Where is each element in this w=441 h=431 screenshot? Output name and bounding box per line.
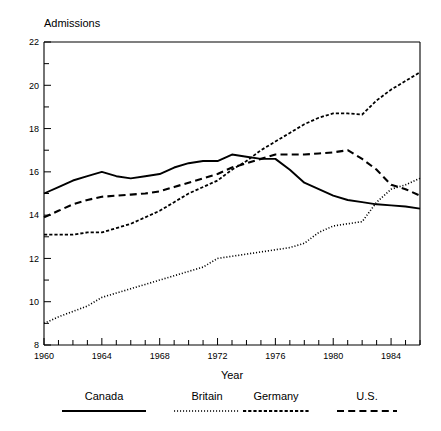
x-axis-tick-label: 1980 [323,351,343,361]
y-axis-tick-label: 16 [29,167,39,177]
legend-label-britain: Britain [191,390,222,402]
x-axis-tick-label: 1976 [265,351,285,361]
x-axis-tick-label: 1972 [208,351,228,361]
x-axis-tick-label: 1960 [34,351,54,361]
legend-label-us: U.S. [356,390,377,402]
x-axis-title: Year [221,369,244,381]
x-axis-tick-label: 1964 [92,351,112,361]
chart-title: Admissions [44,17,101,29]
y-axis-tick-label: 8 [34,340,39,350]
y-axis-tick-label: 10 [29,297,39,307]
legend-label-germany: Germany [253,390,299,402]
y-axis-tick-label: 18 [29,124,39,134]
legend-label-canada: Canada [85,390,124,402]
y-axis-tick-label: 22 [29,37,39,47]
chart-background [0,0,441,431]
x-axis-tick-label: 1968 [150,351,170,361]
admissions-line-chart: Admissions 810121416182022 1960196419681… [0,0,441,431]
x-axis-tick-label: 1984 [381,351,401,361]
y-axis-tick-label: 12 [29,254,39,264]
y-axis-tick-label: 14 [29,210,39,220]
y-axis-tick-label: 20 [29,81,39,91]
